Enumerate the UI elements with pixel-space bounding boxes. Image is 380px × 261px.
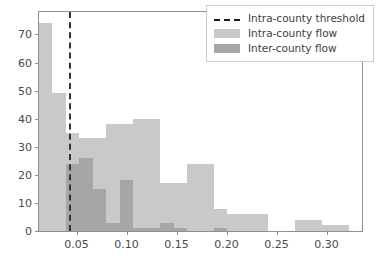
- histogram-bar: [227, 214, 240, 231]
- histogram-bar: [133, 119, 146, 231]
- dashed-line-icon: [214, 13, 240, 25]
- histogram-bar: [79, 158, 92, 231]
- y-tick-mark: [35, 34, 39, 35]
- histogram-bar: [295, 220, 308, 231]
- y-tick-mark: [35, 203, 39, 204]
- y-tick-label: 40: [18, 112, 32, 125]
- histogram-bar: [241, 214, 254, 231]
- histogram-bar: [322, 225, 335, 231]
- y-tick-mark: [35, 91, 39, 92]
- legend-item-intra-county-flow: Intra-county flow: [214, 26, 365, 41]
- figure-canvas: 010203040506070 0.050.100.150.200.250.30…: [0, 0, 380, 261]
- x-tick-label: 0.25: [264, 238, 289, 251]
- x-tick-mark: [127, 231, 128, 235]
- y-tick-label: 10: [18, 196, 32, 209]
- y-tick-mark: [35, 231, 39, 232]
- intra-county-threshold-line: [69, 12, 71, 231]
- x-tick-mark: [177, 231, 178, 235]
- x-tick-label: 0.10: [114, 238, 139, 251]
- x-tick-label: 0.30: [314, 238, 339, 251]
- chart-legend[interactable]: Intra-county threshold Intra-county flow…: [206, 5, 374, 62]
- x-tick-label: 0.05: [64, 238, 89, 251]
- histogram-bar: [133, 228, 146, 231]
- histogram-bar: [106, 124, 119, 231]
- histogram-bar: [120, 180, 133, 231]
- y-tick-label: 0: [25, 225, 32, 238]
- histogram-bar: [147, 119, 160, 231]
- legend-label-threshold: Intra-county threshold: [248, 13, 365, 24]
- x-tick-mark: [227, 231, 228, 235]
- histogram-bar: [93, 189, 106, 231]
- legend-item-inter-county-flow: Inter-county flow: [214, 41, 365, 56]
- histogram-bar: [308, 220, 321, 231]
- histogram-bar: [254, 214, 267, 231]
- y-tick-mark: [35, 63, 39, 64]
- legend-label-inter-county-flow: Inter-county flow: [248, 43, 337, 54]
- y-tick-mark: [35, 175, 39, 176]
- legend-label-intra-county-flow: Intra-county flow: [248, 28, 337, 39]
- histogram-bar: [335, 225, 348, 231]
- histogram-bar: [160, 223, 173, 231]
- x-tick-label: 0.15: [164, 238, 189, 251]
- histogram-bar: [147, 228, 160, 231]
- y-tick-label: 50: [18, 84, 32, 97]
- legend-swatch-intra-icon: [214, 29, 240, 38]
- y-tick-mark: [35, 147, 39, 148]
- legend-swatch-inter-icon: [214, 44, 240, 53]
- y-tick-label: 70: [18, 28, 32, 41]
- legend-item-threshold: Intra-county threshold: [214, 11, 365, 26]
- y-tick-label: 30: [18, 140, 32, 153]
- x-tick-mark: [77, 231, 78, 235]
- histogram-bar: [106, 223, 119, 231]
- histogram-bar: [52, 93, 65, 231]
- x-tick-label: 0.20: [214, 238, 239, 251]
- histogram-bar: [201, 164, 214, 231]
- histogram-bar: [214, 228, 227, 231]
- histogram-bar: [39, 23, 52, 231]
- histogram-bar: [187, 164, 200, 231]
- histogram-bar: [174, 183, 187, 231]
- y-tick-mark: [35, 119, 39, 120]
- x-tick-mark: [327, 231, 328, 235]
- x-tick-mark: [277, 231, 278, 235]
- y-tick-label: 60: [18, 56, 32, 69]
- y-tick-label: 20: [18, 168, 32, 181]
